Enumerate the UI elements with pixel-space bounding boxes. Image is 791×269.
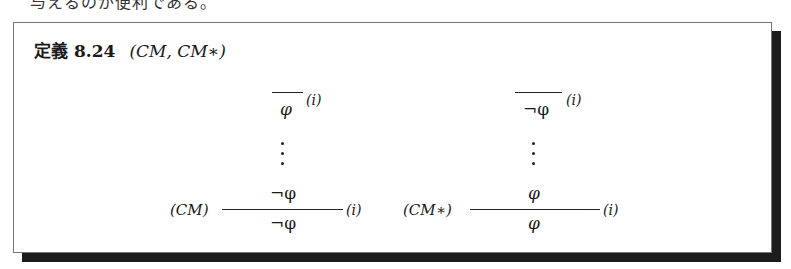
definition-number: 8.24 <box>74 41 115 61</box>
assumption-formula: ¬φ <box>523 101 549 118</box>
inference-rule <box>470 209 600 210</box>
assumption-formula: φ <box>280 101 292 118</box>
vdots-dot <box>281 142 284 145</box>
inference-rule <box>222 209 343 210</box>
assumption-rule <box>272 92 303 93</box>
vdots-dot <box>532 162 535 165</box>
premise-formula: ¬φ <box>270 185 296 202</box>
vdots-dot <box>532 142 535 145</box>
conclusion-formula: ¬φ <box>270 215 296 232</box>
premise-formula: φ <box>528 185 540 202</box>
definition-name: (CM, CM∗) <box>129 41 225 61</box>
definition-label: 定義 <box>34 41 68 61</box>
definition-title: 定義8.24(CM, CM∗) <box>34 37 226 62</box>
conclusion-formula: φ <box>528 215 540 232</box>
preceding-text-cut: 与えるのが便利である。 <box>30 0 217 13</box>
definition-box: 定義8.24(CM, CM∗) <box>13 22 772 253</box>
vdots-dot <box>281 152 284 155</box>
discharge-label: (i) <box>603 203 618 217</box>
assumption-label: (i) <box>566 93 581 107</box>
discharge-label: (i) <box>346 203 361 217</box>
assumption-label: (i) <box>306 93 321 107</box>
vdots-dot <box>281 162 284 165</box>
vdots-dot <box>532 152 535 155</box>
assumption-rule <box>515 92 562 93</box>
rule-label: (CM) <box>170 203 209 218</box>
rule-label: (CM∗) <box>403 203 452 218</box>
